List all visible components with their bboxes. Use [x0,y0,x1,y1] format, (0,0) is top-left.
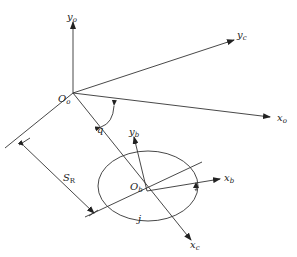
label-y-b: yb [128,126,140,139]
sr-tick-top [19,138,30,145]
ob-line [85,162,202,217]
label-y-o: yo [66,11,77,24]
x-o-axis [73,93,270,117]
sr-dimension-line [24,146,94,213]
label-x-o: xo [277,112,287,125]
label-x-b: xb [224,172,235,185]
label-q: q [97,124,103,135]
y-c-axis [73,40,234,93]
label-x-c: xc [190,239,200,252]
x-b-axis [147,179,220,191]
label-j: j [136,213,141,224]
label-s-r: SR [63,172,76,185]
x-c-axis [73,93,191,240]
label-y-c: yc [236,29,247,42]
coordinate-diagram: yo yc xo Oo q yb xb Ob SR j xc [0,0,297,257]
label-o-b: Ob [130,181,143,194]
